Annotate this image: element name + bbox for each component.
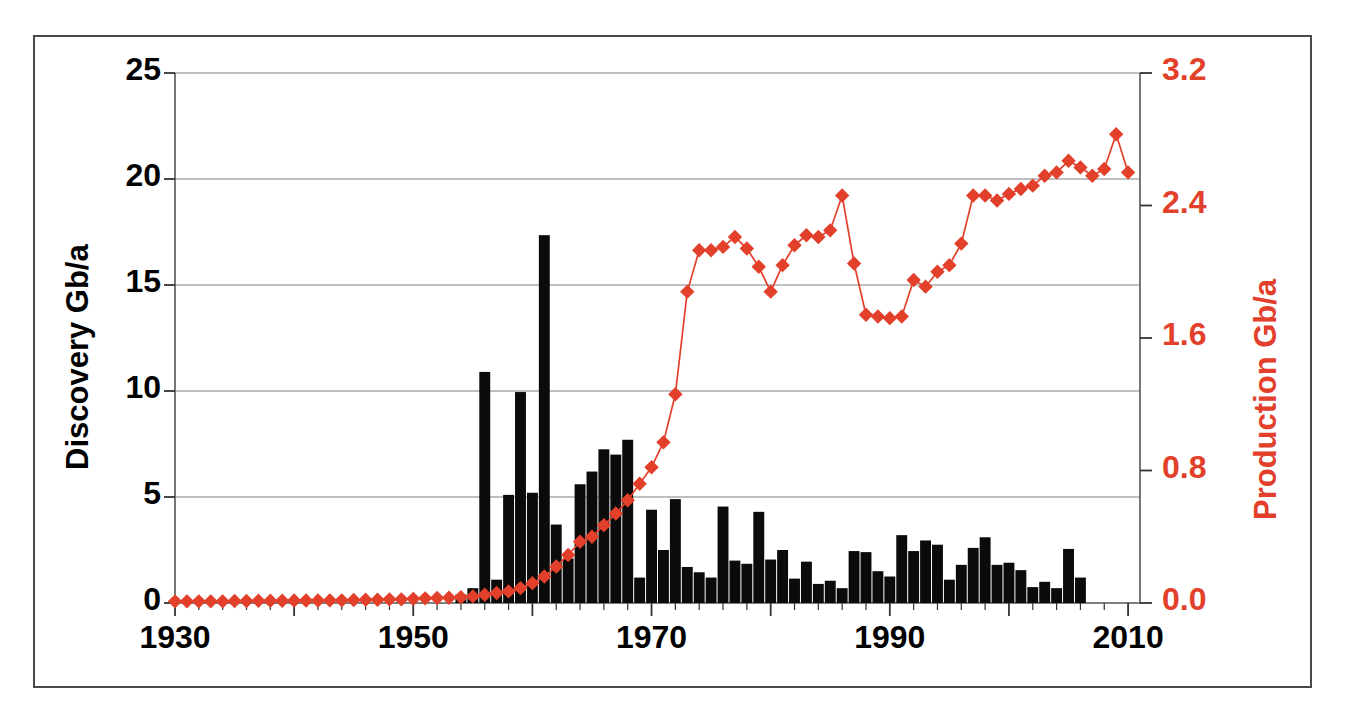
data-point-marker [335, 593, 349, 607]
data-point-marker [847, 256, 861, 270]
bar [479, 372, 490, 603]
data-point-marker [632, 477, 646, 491]
chart-canvas [35, 37, 1310, 686]
y2-axis-tick-label: 3.2 [1162, 51, 1254, 88]
bar [1051, 588, 1062, 603]
chart-frame [33, 35, 1312, 688]
bar [813, 584, 824, 603]
bar [992, 565, 1003, 603]
bar [718, 507, 729, 603]
data-point-marker [835, 188, 849, 202]
bar [1063, 549, 1074, 603]
bar [1075, 578, 1086, 603]
bar [896, 535, 907, 603]
data-point-marker [954, 236, 968, 250]
data-point-marker [215, 594, 229, 608]
bar [694, 572, 705, 603]
data-point-marker [644, 460, 658, 474]
data-point-marker [394, 592, 408, 606]
bar [1039, 582, 1050, 603]
data-point-marker [370, 592, 384, 606]
bar [1003, 563, 1014, 603]
x-axis-tick-label: 1950 [353, 619, 473, 656]
data-point-marker [1085, 168, 1099, 182]
bar [849, 551, 860, 603]
data-point-marker [859, 308, 873, 322]
bar [920, 540, 931, 603]
y2-axis-tick-label: 2.4 [1162, 184, 1254, 221]
bar [944, 580, 955, 603]
data-point-marker [752, 260, 766, 274]
bar [729, 561, 740, 603]
bar [932, 545, 943, 603]
y-axis-tick-label: 5 [69, 475, 161, 512]
data-point-marker [704, 243, 718, 257]
data-point-marker [763, 284, 777, 298]
data-point-marker [1109, 127, 1123, 141]
bar [622, 440, 633, 603]
data-point-marker [811, 230, 825, 244]
x-axis-tick-label: 1930 [115, 619, 235, 656]
data-point-marker [656, 435, 670, 449]
y2-axis-tick-label: 0.0 [1162, 581, 1254, 618]
bar [825, 581, 836, 603]
y2-axis-tick-label: 1.6 [1162, 316, 1254, 353]
bar [801, 562, 812, 603]
bar [1015, 570, 1026, 603]
data-point-marker [1121, 165, 1135, 179]
bar [610, 455, 621, 603]
bar [765, 560, 776, 603]
data-point-marker [1073, 160, 1087, 174]
x-axis-tick-label: 1970 [592, 619, 712, 656]
bar [908, 551, 919, 603]
data-point-marker [775, 258, 789, 272]
bar [634, 578, 645, 603]
bar [563, 558, 574, 603]
bar [741, 564, 752, 603]
bar [1027, 587, 1038, 603]
bar [682, 567, 693, 603]
chart-figure: Discovery Gb/a Production Gb/a 051015202… [0, 0, 1349, 719]
y-axis-tick-label: 20 [69, 157, 161, 194]
bar [872, 571, 883, 603]
data-point-marker [347, 593, 361, 607]
bar [777, 550, 788, 603]
y-axis-tick-label: 25 [69, 51, 161, 88]
bar [515, 392, 526, 603]
data-point-marker [668, 387, 682, 401]
y-axis-tick-label: 0 [69, 581, 161, 618]
data-point-marker [680, 284, 694, 298]
data-point-marker [1097, 162, 1111, 176]
data-point-marker [871, 309, 885, 323]
bar [670, 499, 681, 603]
y-axis-tick-label: 10 [69, 369, 161, 406]
data-point-marker [823, 223, 837, 237]
data-point-marker [406, 592, 420, 606]
bar [658, 550, 669, 603]
x-axis-tick-label: 2010 [1068, 619, 1188, 656]
bar [706, 578, 717, 603]
bar [837, 588, 848, 603]
data-point-marker [239, 594, 253, 608]
data-point-marker [942, 258, 956, 272]
bar [789, 579, 800, 603]
data-point-marker [883, 311, 897, 325]
bar [884, 577, 895, 604]
y2-axis-tick-label: 0.8 [1162, 449, 1254, 486]
data-point-marker [895, 309, 909, 323]
bar [980, 537, 991, 603]
bar [646, 510, 657, 603]
x-axis-tick-label: 1990 [830, 619, 950, 656]
bar [753, 512, 764, 603]
bar [861, 552, 872, 603]
bar [968, 548, 979, 603]
bar [539, 235, 550, 603]
y-axis-tick-label: 15 [69, 263, 161, 300]
bar [956, 565, 967, 603]
